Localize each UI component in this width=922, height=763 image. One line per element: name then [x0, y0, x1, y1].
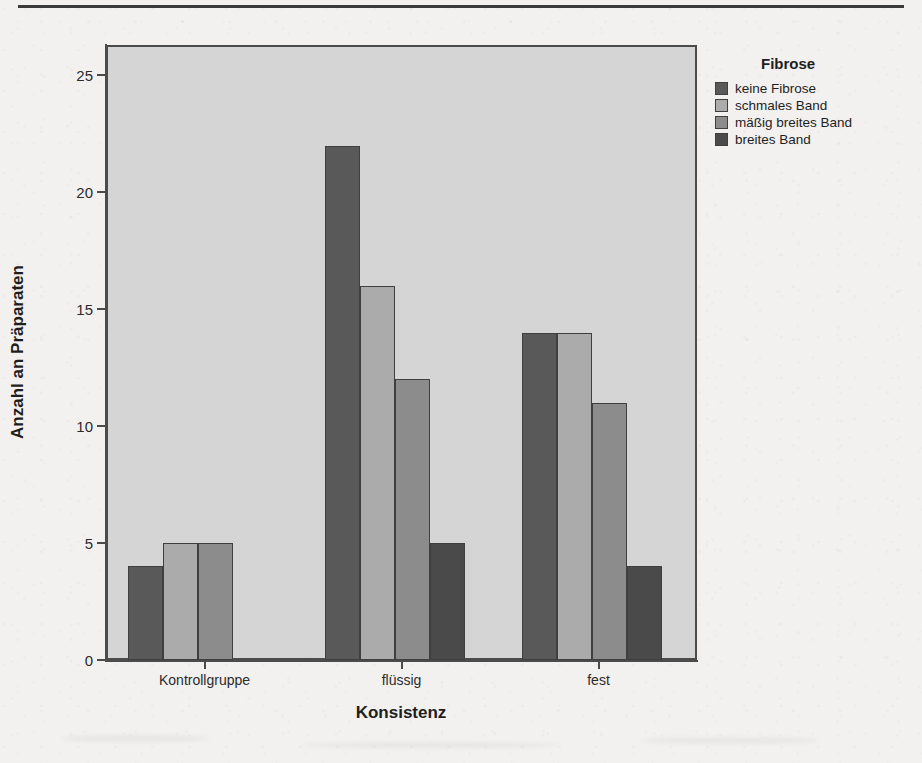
y-tick-label: 10	[76, 418, 93, 435]
legend-swatch-icon	[715, 133, 728, 146]
legend-item-label: breites Band	[735, 132, 811, 147]
legend-items: keine Fibroseschmales Bandmäßig breites …	[715, 81, 915, 147]
legend-item: schmales Band	[715, 98, 915, 113]
y-tick-mark	[97, 191, 105, 193]
legend-swatch-icon	[715, 99, 728, 112]
bar	[163, 543, 198, 660]
y-tick-label: 25	[76, 67, 93, 84]
y-tick-label: 15	[76, 301, 93, 318]
legend-item-label: schmales Band	[735, 98, 827, 113]
x-tick-mark	[598, 660, 600, 669]
y-tick-mark	[97, 308, 105, 310]
legend-swatch-icon	[715, 82, 728, 95]
y-axis: 0510152025 Anzahl an Präparaten	[0, 0, 105, 763]
y-tick-mark	[97, 542, 105, 544]
scan-smudge	[300, 742, 560, 748]
x-axis-title: Konsistenz	[356, 703, 447, 723]
legend-item: breites Band	[715, 132, 915, 147]
legend: Fibrose keine Fibroseschmales Bandmäßig …	[715, 55, 915, 149]
y-tick-label: 0	[85, 652, 93, 669]
bar	[198, 543, 233, 660]
x-tick-label: flüssig	[382, 672, 422, 688]
legend-title: Fibrose	[761, 55, 915, 72]
y-tick-label: 20	[76, 184, 93, 201]
scan-smudge	[60, 735, 210, 742]
y-tick-label: 5	[85, 535, 93, 552]
legend-swatch-icon	[715, 116, 728, 129]
x-tick-mark	[204, 660, 206, 669]
y-tick-mark	[97, 425, 105, 427]
bar	[430, 543, 465, 660]
y-tick-mark	[97, 74, 105, 76]
legend-item-label: mäßig breites Band	[735, 115, 852, 130]
scan-smudge	[640, 737, 820, 744]
y-tick-mark	[97, 659, 105, 661]
legend-item: keine Fibrose	[715, 81, 915, 96]
bar	[557, 333, 592, 660]
bar	[128, 566, 163, 660]
y-axis-line	[105, 44, 107, 662]
y-axis-title: Anzahl an Präparaten	[8, 265, 28, 439]
bar	[522, 333, 557, 660]
legend-item: mäßig breites Band	[715, 115, 915, 130]
bar	[325, 146, 360, 660]
bar	[592, 403, 627, 660]
x-tick-label: fest	[587, 672, 610, 688]
bar	[627, 566, 662, 660]
legend-item-label: keine Fibrose	[735, 81, 816, 96]
x-tick-label: Kontrollgruppe	[159, 672, 250, 688]
bar	[360, 286, 395, 660]
x-tick-mark	[401, 660, 403, 669]
bar	[395, 379, 430, 660]
bar-chart: 0510152025 Anzahl an Präparaten Kontroll…	[0, 0, 922, 763]
